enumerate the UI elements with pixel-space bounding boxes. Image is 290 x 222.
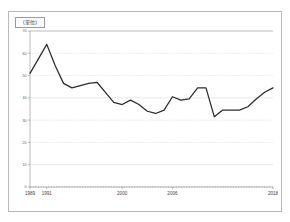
x-axis-label-2018: 2018 <box>268 191 279 196</box>
y-axis-label-20: 20 <box>23 141 27 145</box>
line-chart-svg: 01020304050607019891991200020062018 <box>9 12 281 211</box>
plot-area: 01020304050607019891991200020062018 <box>9 12 281 211</box>
y-axis-label-70: 70 <box>23 29 27 33</box>
x-axis-label-2006: 2006 <box>167 191 178 196</box>
x-axis-label-1989: 1989 <box>25 191 36 196</box>
y-axis-label-50: 50 <box>23 74 27 78</box>
x-axis-label-2000: 2000 <box>117 191 128 196</box>
y-axis-label-40: 40 <box>23 96 27 100</box>
data-line-series-1 <box>30 44 273 116</box>
y-axis-label-30: 30 <box>23 119 27 123</box>
y-axis-label-10: 10 <box>23 163 27 167</box>
y-axis-label-60: 60 <box>23 52 27 56</box>
x-axis-label-1991: 1991 <box>42 191 53 196</box>
chart-card: (単位) 01020304050607019891991200020062018 <box>8 11 282 212</box>
y-axis-label-0: 0 <box>25 185 27 189</box>
